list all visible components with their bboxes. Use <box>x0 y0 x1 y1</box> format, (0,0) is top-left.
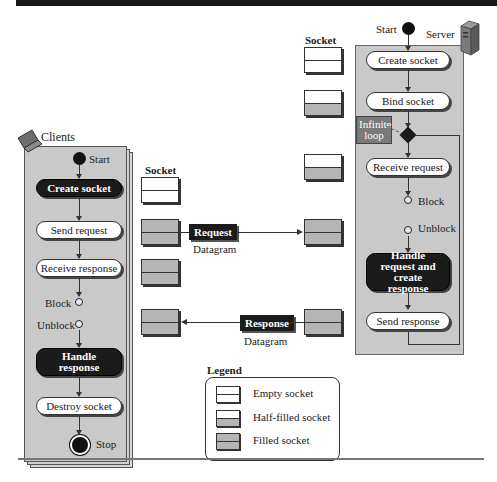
legend-half-filled-label: Half-filled socket <box>253 411 330 423</box>
bottom-rule <box>18 458 484 460</box>
server-icon <box>459 20 481 56</box>
client-socket-heading: Socket <box>145 164 176 176</box>
response-datagram: Response <box>240 315 294 331</box>
server-step-send-response: Send response <box>366 312 450 330</box>
server-socket-filled <box>304 309 342 335</box>
top-rule <box>16 0 497 6</box>
server-socket-empty <box>304 47 342 73</box>
server-block-label: Block <box>418 195 444 207</box>
response-datagram-label: Datagram <box>244 335 287 347</box>
client-step-send-request: Send request <box>36 221 122 239</box>
client-step-destroy-socket: Destroy socket <box>36 397 122 415</box>
server-socket-half-filled <box>304 90 342 116</box>
server-start-node <box>402 22 415 35</box>
client-socket-filled <box>141 309 179 335</box>
client-unblock-ring <box>75 320 83 328</box>
server-step-create-socket: Create socket <box>366 51 450 69</box>
server-step-receive-request: Receive request <box>366 158 450 176</box>
client-socket-filled <box>141 219 179 245</box>
client-step-receive-response: Receive response <box>36 259 122 277</box>
client-block-label: Block <box>45 297 71 309</box>
legend-half-filled-socket-icon <box>216 410 240 427</box>
client-start-node <box>73 152 86 165</box>
client-stop-node <box>70 435 90 455</box>
client-block-ring <box>75 298 83 306</box>
legend-title: Legend <box>207 364 242 376</box>
client-socket-filled <box>141 259 179 285</box>
clients-title: Clients <box>41 130 75 145</box>
request-datagram: Request <box>189 224 237 240</box>
request-datagram-label: Datagram <box>193 243 236 255</box>
client-stop-label: Stop <box>96 438 116 450</box>
infinite-loop-note: Infinite loop <box>356 116 392 144</box>
server-block-ring <box>404 196 412 204</box>
server-unblock-ring <box>404 226 412 234</box>
legend-empty-socket-icon <box>216 386 240 403</box>
client-step-create-socket: Create socket <box>36 179 122 197</box>
client-socket-empty <box>141 177 179 203</box>
laptop-icon <box>14 128 44 154</box>
server-socket-filled <box>304 219 342 245</box>
legend-empty-label: Empty socket <box>253 387 313 399</box>
server-unblock-label: Unblock <box>418 222 456 234</box>
server-step-bind-socket: Bind socket <box>366 92 450 110</box>
server-socket-heading: Socket <box>305 34 336 46</box>
client-start-label: Start <box>89 153 110 165</box>
client-unblock-label: Unblock <box>37 319 75 331</box>
server-title: Server <box>426 28 455 40</box>
legend-filled-label: Filled socket <box>253 434 310 446</box>
client-step-handle-response: Handle response <box>36 348 122 376</box>
legend-filled-socket-icon <box>216 433 240 450</box>
server-start-label: Start <box>376 23 397 35</box>
server-step-handle-request: Handle request and create response <box>366 253 450 291</box>
server-socket-half-filled <box>304 154 342 180</box>
legend-box: Empty socket Half-filled socket Filled s… <box>205 377 340 461</box>
